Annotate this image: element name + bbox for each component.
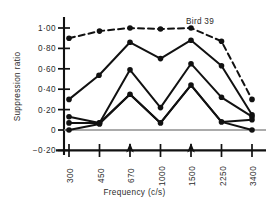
x-tick-label-300: 300 — [66, 168, 75, 183]
x-tick-label-450: 450 — [97, 168, 106, 183]
x-tick-label-2250: 2250 — [219, 166, 228, 186]
x-tick-label-3400: 3400 — [249, 166, 258, 186]
y-tick-label-minus-0-20: −0·20 — [8, 146, 56, 155]
x-tick-label-1500: 1500 — [188, 166, 197, 186]
x-tick-label-670: 670 — [127, 168, 136, 183]
chart-annotation-bird-id: Bird 39 — [186, 17, 214, 26]
chart-figure: 1·00 0·80 0·60 0·40 0·20 0 −0·20 300 450… — [0, 0, 269, 206]
x-axis-title: Frequency (c/s) — [0, 188, 269, 197]
x-tick-label-1000: 1000 — [158, 166, 167, 186]
y-axis-title: Suppression ratio — [13, 32, 22, 142]
